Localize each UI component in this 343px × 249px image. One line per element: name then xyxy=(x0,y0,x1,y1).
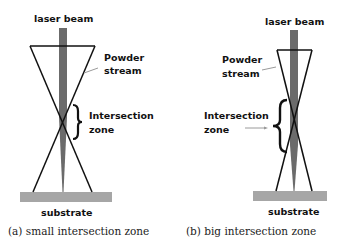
substrate-b xyxy=(253,191,327,201)
caption-b: (b) big intersection zone xyxy=(186,225,316,237)
powder-stream-label-b-line1: Powder xyxy=(222,54,262,65)
intersection-zone-label-b-line1: Intersection xyxy=(204,110,269,121)
brace-a xyxy=(73,105,82,139)
substrate-label-b: substrate xyxy=(268,206,320,217)
substrate-label-a: substrate xyxy=(41,207,93,218)
caption-a: (a) small intersection zone xyxy=(8,225,149,237)
brace-b xyxy=(273,100,287,152)
powder-stream-label-b-line2: stream xyxy=(222,68,260,79)
zone-arrowhead-b xyxy=(264,127,268,130)
laser-beam-label-b: laser beam xyxy=(265,16,324,27)
powder-stream-label-a-line2: stream xyxy=(104,65,142,76)
laser-beam-a xyxy=(59,28,67,192)
intersection-zone-label-b-line2: zone xyxy=(204,124,229,135)
powder-stream-label-a-line1: Powder xyxy=(104,52,144,63)
substrate-a xyxy=(20,192,112,202)
laser-beam-label-a: laser beam xyxy=(34,13,93,24)
intersection-zone-label-a-line2: zone xyxy=(89,124,114,135)
powder-arrow-b xyxy=(262,67,276,70)
intersection-zone-label-a-line1: Intersection xyxy=(89,110,154,121)
